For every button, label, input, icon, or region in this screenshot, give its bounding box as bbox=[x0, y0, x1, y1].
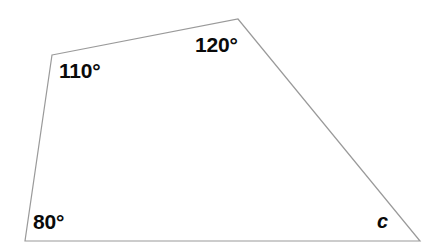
angle-label-top: 120° bbox=[195, 34, 238, 55]
angle-label-bottom-left: 80° bbox=[33, 211, 64, 232]
quadrilateral-figure: 110° 120° 80° c bbox=[0, 0, 434, 247]
angle-label-top-left: 110° bbox=[59, 60, 100, 81]
angle-label-bottom-right: c bbox=[377, 211, 388, 231]
